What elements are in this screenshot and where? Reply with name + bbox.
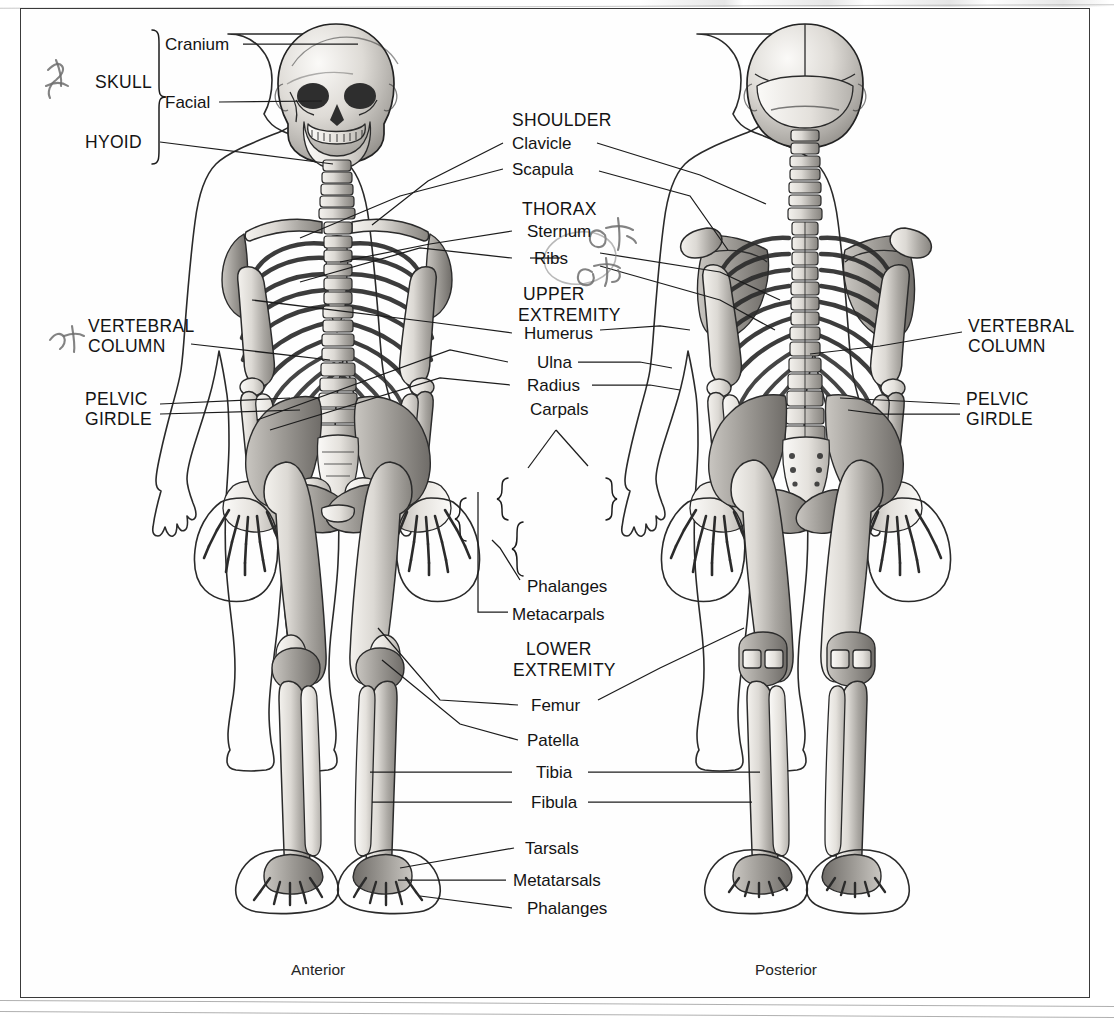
label-ulna: Ulna — [537, 353, 573, 372]
label-scapula: Scapula — [512, 160, 574, 179]
label-patella: Patella — [527, 731, 580, 750]
handwritten-mark-skull — [46, 60, 68, 98]
label-femur: Femur — [531, 696, 580, 715]
label-fibula: Fibula — [531, 793, 578, 812]
label-tibia: Tibia — [536, 763, 573, 782]
label-carpals: Carpals — [530, 400, 589, 419]
label-ribs: Ribs — [534, 249, 568, 268]
label-cranium: Cranium — [165, 35, 229, 54]
handwritten-mark-vertebral — [50, 326, 84, 352]
label-hyoid: HYOID — [85, 132, 142, 152]
skull-brace — [152, 30, 166, 164]
phalanges-brace — [512, 522, 523, 576]
label-vertebral-column-right-line1: VERTEBRAL — [968, 316, 1074, 336]
label-pelvic-girdle-left-line1: PELVIC — [85, 389, 148, 409]
anterior-skeleton-figure — [153, 24, 480, 914]
skeleton-diagram: SKULL Cranium Facial HYOID VERTEBRAL COL… — [0, 0, 1114, 1024]
label-facial: Facial — [165, 93, 210, 112]
label-pelvic-girdle-right-line2: GIRDLE — [966, 409, 1033, 429]
carpals-brace-left — [497, 478, 508, 520]
label-radius: Radius — [527, 376, 580, 395]
label-humerus: Humerus — [524, 324, 593, 343]
caption-anterior: Anterior — [291, 961, 345, 978]
label-sternum: Sternum — [527, 222, 591, 241]
label-phalanges-foot: Phalanges — [527, 899, 607, 918]
label-vertebral-column-left-line1: VERTEBRAL — [88, 316, 194, 336]
label-tarsals: Tarsals — [525, 839, 579, 858]
label-vertebral-column-right-line2: COLUMN — [968, 336, 1046, 356]
label-pelvic-girdle-right-line1: PELVIC — [966, 389, 1029, 409]
label-pelvic-girdle-left-line2: GIRDLE — [85, 409, 152, 429]
label-thorax: THORAX — [522, 199, 597, 219]
label-lower-extremity-line1: LOWER — [526, 639, 592, 659]
label-metacarpals: Metacarpals — [512, 605, 605, 624]
label-upper-extremity-line1: UPPER — [523, 284, 585, 304]
label-lower-extremity-line2: EXTREMITY — [513, 660, 616, 680]
label-upper-extremity-line2: EXTREMITY — [518, 305, 621, 325]
label-skull: SKULL — [95, 72, 152, 92]
label-metatarsals: Metatarsals — [513, 871, 601, 890]
label-vertebral-column-left-line2: COLUMN — [88, 336, 166, 356]
caption-posterior: Posterior — [755, 961, 817, 978]
label-shoulder: SHOULDER — [512, 110, 612, 130]
label-clavicle: Clavicle — [512, 134, 572, 153]
posterior-skeleton-figure — [622, 24, 951, 914]
label-phalanges-hand: Phalanges — [527, 577, 607, 596]
carpals-brace-right — [606, 478, 617, 520]
